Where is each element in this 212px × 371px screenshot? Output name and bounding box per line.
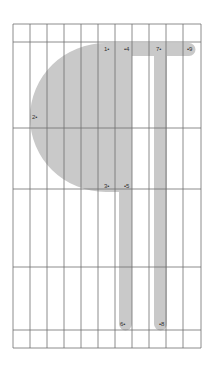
glyph-shapes — [30, 43, 196, 331]
point-label-2: 2• — [32, 114, 37, 120]
point-label-5: •5 — [124, 183, 129, 189]
top-bar-shape — [106, 43, 196, 56]
point-label-8: •8 — [159, 321, 164, 327]
point-label-6: 6• — [120, 321, 125, 327]
point-label-9: •9 — [187, 46, 192, 52]
right-stem-shape — [154, 56, 167, 331]
point-label-4: •4 — [124, 46, 129, 52]
left-stem-shape — [119, 56, 132, 331]
point-label-7: 7• — [156, 46, 161, 52]
glyph-diagram: 1• 2• 3• •4 •5 6• 7• •8 •9 — [0, 0, 212, 371]
point-label-1: 1• — [104, 46, 109, 52]
point-label-3: 3• — [104, 183, 109, 189]
